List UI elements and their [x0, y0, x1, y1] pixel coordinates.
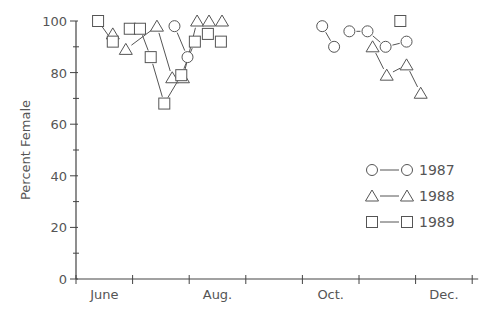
y-tick-label: 40 [50, 169, 67, 184]
triangle-marker-1988 [366, 41, 379, 52]
series-line-1987 [373, 36, 380, 42]
triangle-marker-1988 [216, 15, 229, 26]
circle-marker-1987 [182, 52, 193, 63]
triangle-marker-1988 [400, 59, 413, 70]
circle-marker-1987 [362, 26, 373, 37]
legend-circle-icon [402, 165, 413, 176]
legend-circle-icon [367, 165, 378, 176]
triangle-marker-1988 [119, 43, 132, 54]
legend-label: 1989 [419, 214, 455, 230]
triangle-marker-1988 [191, 15, 204, 26]
square-marker-1989 [176, 70, 187, 81]
legend-square-icon [402, 217, 413, 228]
series-line-1989 [168, 81, 178, 97]
triangle-marker-1988 [380, 69, 393, 80]
square-marker-1989 [395, 16, 406, 27]
legend-square-icon [367, 217, 378, 228]
circle-marker-1987 [317, 21, 328, 32]
series-line-1988 [393, 68, 400, 72]
series-line-1988 [185, 28, 196, 71]
triangle-marker-1988 [203, 15, 216, 26]
y-tick-label: 60 [50, 117, 67, 132]
x-tick-label: Dec. [429, 287, 458, 302]
series-line-1989 [153, 64, 163, 97]
scatter-chart: 020406080100JuneAug.Oct.Dec. 19871988198… [0, 0, 487, 315]
circle-marker-1987 [169, 21, 180, 32]
square-marker-1989 [189, 36, 200, 47]
y-tick-label: 100 [42, 14, 67, 29]
legend-label: 1987 [419, 162, 455, 178]
square-marker-1989 [124, 23, 135, 34]
series-line-1989 [102, 27, 109, 36]
series-line-1988 [410, 71, 418, 87]
legend-triangle-icon [366, 190, 379, 201]
legend-triangle-icon [401, 190, 414, 201]
series-line-1989 [142, 35, 148, 50]
data-markers [93, 15, 428, 109]
y-tick-label: 0 [59, 272, 67, 287]
series-line-1987 [177, 33, 185, 51]
legend: 198719881989 [366, 162, 455, 230]
x-tick-label: Aug. [203, 287, 233, 302]
square-marker-1989 [93, 16, 104, 27]
circle-marker-1987 [380, 41, 391, 52]
y-tick-label: 80 [50, 66, 67, 81]
square-marker-1989 [159, 98, 170, 109]
x-tick-label: Oct. [317, 287, 344, 302]
series-line-1988 [376, 53, 384, 69]
triangle-marker-1988 [414, 87, 427, 98]
square-marker-1989 [202, 28, 213, 39]
series-line-1987 [326, 32, 331, 41]
axes: 020406080100JuneAug.Oct.Dec. [42, 14, 478, 302]
square-marker-1989 [145, 52, 156, 63]
legend-label: 1988 [419, 188, 455, 204]
series-line-1988 [159, 33, 170, 71]
circle-marker-1987 [329, 41, 340, 52]
x-tick-label: June [89, 287, 118, 302]
square-marker-1989 [134, 23, 145, 34]
series-line-1987 [392, 43, 399, 45]
circle-marker-1987 [401, 36, 412, 47]
circle-marker-1987 [344, 26, 355, 37]
y-tick-label: 20 [50, 220, 67, 235]
square-marker-1989 [215, 36, 226, 47]
triangle-marker-1988 [150, 20, 163, 31]
square-marker-1989 [107, 36, 118, 47]
